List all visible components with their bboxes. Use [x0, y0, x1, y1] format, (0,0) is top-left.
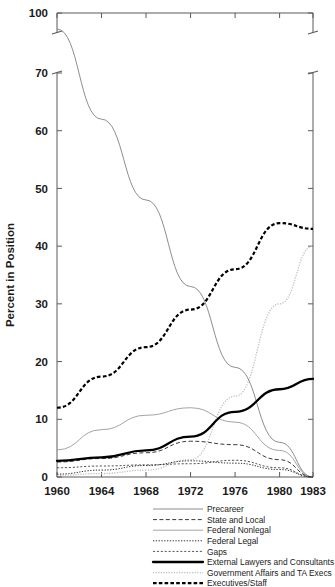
x-tick-label: 1960: [44, 485, 70, 497]
y-tick-label: 70: [35, 67, 48, 79]
x-tick-label: 1983: [300, 485, 326, 497]
y-tick-label: 10: [35, 413, 48, 425]
y-axis: 010203040506070100: [29, 7, 313, 483]
plot-frame: [57, 13, 313, 477]
y-tick-label: 60: [35, 125, 48, 137]
legend-label-precareer[interactable]: Precareer: [207, 504, 244, 514]
x-tick-label: 1980: [267, 485, 293, 497]
legend-label-gaps[interactable]: Gaps: [207, 547, 227, 557]
y-tick-label: 50: [35, 183, 48, 195]
chart-page: 0102030405060701001960196419681972197619…: [0, 0, 335, 587]
y-axis-title: Percent in Position: [4, 223, 16, 327]
legend-label-federal-nonlegal[interactable]: Federal Nonlegal: [207, 525, 271, 535]
series-line-external-lawyers-and-consultants: [57, 379, 313, 461]
x-tick-label: 1976: [222, 485, 248, 497]
y-tick-label: 20: [35, 356, 48, 368]
legend-label-state-and-local[interactable]: State and Local: [207, 515, 265, 525]
y-tick-label: 40: [35, 240, 48, 252]
series-line-state-and-local: [57, 441, 313, 477]
x-axis: 1960196419681972197619801983: [44, 13, 326, 497]
series-line-federal-nonlegal: [57, 408, 313, 477]
axis-break-marks: [52, 31, 318, 74]
x-tick-label: 1968: [133, 485, 159, 497]
y-tick-label: 30: [35, 298, 48, 310]
line-chart: 0102030405060701001960196419681972197619…: [0, 0, 335, 587]
legend: PrecareerState and LocalFederal Nonlegal…: [153, 504, 334, 587]
x-tick-label: 1972: [178, 485, 204, 497]
x-tick-label: 1964: [89, 485, 115, 497]
legend-label-federal-legal[interactable]: Federal Legal: [207, 536, 258, 546]
series-group: [57, 29, 313, 477]
series-line-precareer: [57, 29, 313, 477]
y-tick-label: 0: [42, 471, 48, 483]
y-tick-label: 100: [29, 7, 48, 19]
series-line-federal-legal: [57, 461, 313, 477]
series-line-executives-staff: [57, 223, 313, 408]
series-line-gaps: [57, 460, 313, 477]
legend-label-external-lawyers-and-consultants[interactable]: External Lawyers and Consultants: [207, 557, 334, 567]
legend-label-executives-staff[interactable]: Executives/Staff: [207, 578, 268, 587]
legend-label-government-affairs-and-ta-execs[interactable]: Government Affairs and TA Execs: [207, 568, 332, 578]
